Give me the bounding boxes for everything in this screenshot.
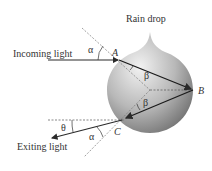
alpha-bottom-arc <box>97 127 103 137</box>
beta-bottom-label: β <box>143 97 148 108</box>
point-a-label: A <box>111 47 119 58</box>
alpha-bottom-label: α <box>89 131 95 142</box>
point-c-label: C <box>114 126 121 137</box>
theta-label: θ <box>61 122 66 133</box>
theta-arc <box>72 120 73 132</box>
point-b-label: B <box>198 85 204 96</box>
raindrop-shape <box>107 32 193 133</box>
alpha-top-arc <box>98 46 103 60</box>
alpha-top-label: α <box>88 44 94 55</box>
title-label: Rain drop <box>126 13 166 24</box>
beta-top-label: β <box>144 70 149 81</box>
incoming-light-label: Incoming light <box>13 48 72 59</box>
exiting-light-label: Exiting light <box>17 141 68 152</box>
raindrop-diagram: Rain drop Incoming light Exiting light A… <box>0 0 212 171</box>
